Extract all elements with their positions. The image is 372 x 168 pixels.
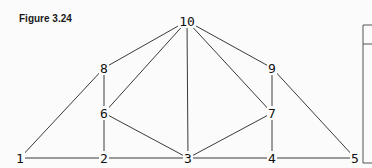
edge-10-7 xyxy=(187,21,272,113)
node-label: 7 xyxy=(268,106,276,121)
node-label: 5 xyxy=(351,151,359,166)
graph-diagram: 12345678910 xyxy=(0,0,372,168)
node-6: 6 xyxy=(99,106,109,121)
node-label: 10 xyxy=(179,14,195,29)
node-label: 4 xyxy=(268,151,276,166)
edge-10-6 xyxy=(104,21,187,113)
side-frame xyxy=(363,25,372,163)
node-2: 2 xyxy=(99,151,109,166)
node-label: 8 xyxy=(100,61,108,76)
graph-edges xyxy=(20,21,355,158)
node-7: 7 xyxy=(267,106,277,121)
node-label: 6 xyxy=(100,106,108,121)
node-3: 3 xyxy=(183,151,193,166)
node-label: 3 xyxy=(184,151,192,166)
edge-6-3 xyxy=(104,113,188,158)
node-8: 8 xyxy=(99,61,109,76)
node-label: 9 xyxy=(268,61,276,76)
edge-8-10 xyxy=(104,21,187,68)
node-9: 9 xyxy=(267,61,277,76)
node-10: 10 xyxy=(178,14,196,29)
node-4: 4 xyxy=(267,151,277,166)
node-label: 2 xyxy=(100,151,108,166)
node-1: 1 xyxy=(15,151,25,166)
edge-10-9 xyxy=(187,21,272,68)
edge-10-3 xyxy=(187,21,188,158)
edge-9-5 xyxy=(272,68,355,158)
edge-1-8 xyxy=(20,68,104,158)
edge-3-7 xyxy=(188,113,272,158)
node-label: 1 xyxy=(16,151,24,166)
node-5: 5 xyxy=(350,151,360,166)
